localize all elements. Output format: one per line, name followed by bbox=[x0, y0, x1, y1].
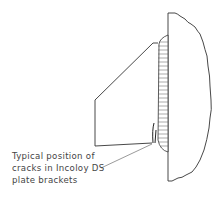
caption-line-3: plate brackets bbox=[12, 176, 77, 185]
leader-line bbox=[101, 144, 152, 168]
weld-bead bbox=[158, 35, 168, 152]
crack bbox=[153, 123, 156, 143]
caption-line-1: Typical position of bbox=[12, 152, 95, 161]
plate-bracket bbox=[95, 43, 158, 146]
wall-section bbox=[168, 13, 211, 181]
caption-line-2: cracks in Incoloy DS bbox=[12, 164, 105, 173]
